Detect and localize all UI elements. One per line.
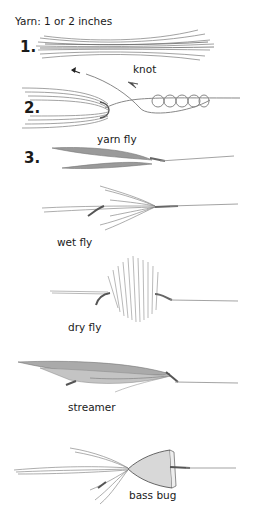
streamer-drawing <box>18 361 238 392</box>
yarn-fly-label: yarn fly <box>97 134 137 145</box>
bass-bug-drawing <box>14 448 236 504</box>
wet-fly-drawing <box>42 186 238 230</box>
yarn-length-caption: Yarn: 1 or 2 inches <box>15 16 112 27</box>
step-1-number: 1. <box>20 40 36 55</box>
wet-fly-label: wet fly <box>57 237 92 248</box>
fly-tying-illustration <box>0 0 256 514</box>
knot-pointer-icon <box>128 82 138 88</box>
yarn-fly-drawing <box>52 148 234 169</box>
knot-label: knot <box>133 64 156 75</box>
streamer-label: streamer <box>68 402 116 413</box>
knot-step-drawing <box>22 67 240 128</box>
dry-fly-label: dry fly <box>68 322 101 333</box>
bass-bug-label: bass bug <box>129 490 176 501</box>
step-2-number: 2. <box>24 101 40 116</box>
yarn-bundle-drawing <box>36 30 214 60</box>
dry-fly-drawing <box>50 256 238 322</box>
step-3-number: 3. <box>24 151 40 166</box>
